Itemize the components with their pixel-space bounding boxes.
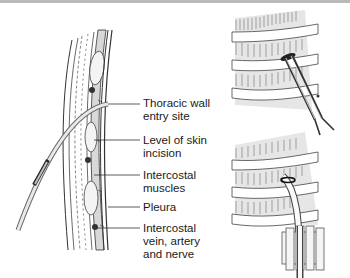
cross-section-panel [18, 30, 140, 250]
rib-lower [84, 181, 98, 215]
label-level-of-skin-incision: Level of skin incision [143, 134, 207, 160]
rib-middle [85, 122, 97, 152]
label-pleura: Pleura [143, 201, 176, 214]
label-intercostal-vein-artery-nerve: Intercostal vein, artery and nerve [143, 222, 200, 261]
tube-insertion-panel [232, 132, 324, 278]
forceps-dissection-panel [232, 10, 334, 135]
label-intercostal-muscles: Intercostal muscles [143, 169, 196, 195]
label-thoracic-wall-entry-site: Thoracic wall entry site [143, 97, 210, 123]
